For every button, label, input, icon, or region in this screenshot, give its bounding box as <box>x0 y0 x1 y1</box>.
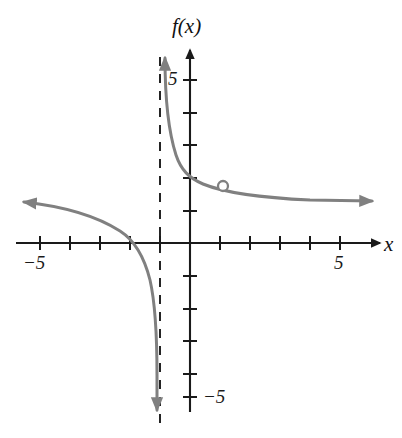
y-axis <box>183 50 197 412</box>
y-axis-title: f(x) <box>172 14 201 39</box>
open-circle-hole-at-1-2 <box>218 181 228 191</box>
x-tick-label-5: 5 <box>334 252 344 274</box>
y-tick-label-minus-5: −5 <box>203 386 225 408</box>
x-tick-label-minus-5: −5 <box>23 252 45 274</box>
x-axis-title: x <box>384 232 393 257</box>
graph-canvas <box>0 0 402 438</box>
y-tick-label-5: 5 <box>168 68 178 90</box>
function-graph-figure: f(x) x −5 5 5 −5 <box>0 0 402 438</box>
curve-left-branch <box>24 202 157 410</box>
x-axis <box>16 236 380 250</box>
